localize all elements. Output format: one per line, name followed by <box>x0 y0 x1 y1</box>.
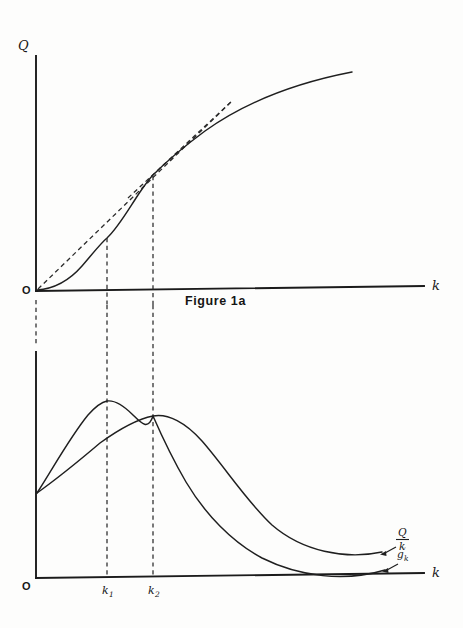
figure-caption: Figure 1a <box>185 294 246 308</box>
inter-panel-connectors <box>36 300 153 578</box>
figure-canvas: Q k O Q <box>0 0 463 628</box>
bottom-panel-average-product-curve <box>37 415 382 554</box>
top-panel-origin-label: O <box>22 284 31 296</box>
bottom-panel-origin-label: O <box>22 580 31 592</box>
top-panel-y-axis-label: Q <box>18 38 29 53</box>
top-panel-total-product-curve <box>37 72 352 290</box>
bottom-panel-x-axis-label: k <box>432 565 440 580</box>
marginal-product-subscript: k <box>404 554 409 563</box>
marginal-product-label: g ′ k <box>397 546 409 563</box>
bottom-panel-tick-k2: k 2 <box>148 584 160 599</box>
top-panel-tangent-line <box>128 101 232 198</box>
bottom-panel-marginal-product-curve <box>37 401 385 577</box>
tick-k2-base: k <box>148 584 155 597</box>
marginal-product-leader-line <box>387 564 398 570</box>
figure-root: Q k O Q <box>0 0 463 628</box>
marginal-product-base: g <box>397 548 404 560</box>
average-product-numerator: Q <box>398 526 407 539</box>
tick-k1-base: k <box>102 584 109 597</box>
top-panel-origin-ray <box>38 101 232 289</box>
top-panel-x-axis <box>36 286 424 291</box>
panel-bottom-group: Q k g ′ k k O k 1 k 2 <box>22 352 440 599</box>
bottom-panel-tick-k1: k 1 <box>102 584 114 599</box>
average-product-leader-line <box>385 547 396 553</box>
top-panel-x-axis-label: k <box>432 278 440 293</box>
tick-k1-subscript: 1 <box>109 590 114 599</box>
tick-k2-subscript: 2 <box>154 590 160 599</box>
panel-top-group: Q k O <box>18 38 440 305</box>
